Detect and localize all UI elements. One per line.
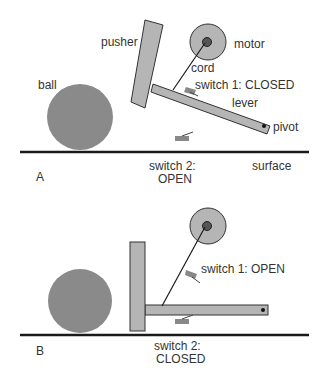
switch2-arm-b xyxy=(182,315,193,319)
ball-b xyxy=(48,269,112,333)
panel-a: pusher motor cord ball switch 1: CLOSED … xyxy=(20,20,309,186)
mechanism-diagram: pusher motor cord ball switch 1: CLOSED … xyxy=(0,0,326,382)
pivot-a xyxy=(262,124,266,128)
label-switch2-b-line2: CLOSED xyxy=(156,352,206,366)
label-ball: ball xyxy=(38,78,57,92)
cord-b xyxy=(162,227,205,306)
label-lever: lever xyxy=(232,96,258,110)
label-surface: surface xyxy=(252,159,292,173)
label-cord: cord xyxy=(191,61,214,75)
pivot-b xyxy=(261,308,265,312)
switch1-arm-b xyxy=(192,277,200,283)
label-switch2-b-line1: switch 2: xyxy=(154,339,201,353)
panel-b: switch 1: OPEN B switch 2: CLOSED xyxy=(20,208,309,366)
label-switch1-b: switch 1: OPEN xyxy=(201,262,285,276)
panel-label-b: B xyxy=(36,344,44,358)
label-switch2-a-line2: OPEN xyxy=(158,172,192,186)
label-switch2-a-line1: switch 2: xyxy=(149,159,196,173)
label-pusher: pusher xyxy=(101,35,138,49)
panel-label-a: A xyxy=(36,170,44,184)
switch1-b xyxy=(185,270,197,279)
switch2-a xyxy=(175,136,189,141)
label-motor: motor xyxy=(234,37,265,51)
switch2-b xyxy=(175,319,189,324)
pusher-b xyxy=(130,242,145,331)
label-switch1-a: switch 1: CLOSED xyxy=(195,78,295,92)
ball-a xyxy=(47,84,113,150)
switch2-arm-a xyxy=(182,132,193,136)
label-pivot: pivot xyxy=(273,120,299,134)
lever-b xyxy=(145,305,268,315)
